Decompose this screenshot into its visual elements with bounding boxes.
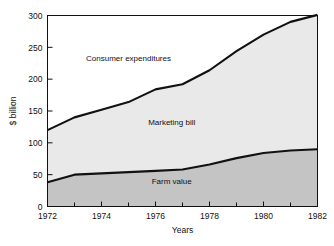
y-tick-label: 250	[28, 43, 42, 53]
y-tick-label: 300	[28, 11, 42, 21]
y-tick-label: 150	[28, 106, 42, 116]
y-tick-label: 200	[28, 74, 42, 84]
y-tick-label: 50	[33, 170, 43, 180]
x-tick-label: 1982	[308, 211, 327, 221]
x-tick-label: 1974	[92, 211, 111, 221]
label-marketing-bill: Marketing bill	[148, 118, 195, 127]
x-tick-label: 1980	[254, 211, 273, 221]
chart-container: 0501001502002503001972197419761978198019…	[0, 0, 334, 246]
y-tick-label: 100	[28, 138, 42, 148]
label-farm-value: Farm value	[152, 177, 193, 186]
x-axis-title: Years	[172, 225, 193, 235]
x-tick-label: 1972	[38, 211, 57, 221]
label-consumer-expenditures: Consumer expenditures	[86, 54, 171, 63]
x-tick-label: 1976	[146, 211, 165, 221]
y-axis-title: $ billion	[8, 96, 18, 125]
x-tick-label: 1978	[200, 211, 219, 221]
stacked-area-chart: 0501001502002503001972197419761978198019…	[0, 0, 334, 246]
